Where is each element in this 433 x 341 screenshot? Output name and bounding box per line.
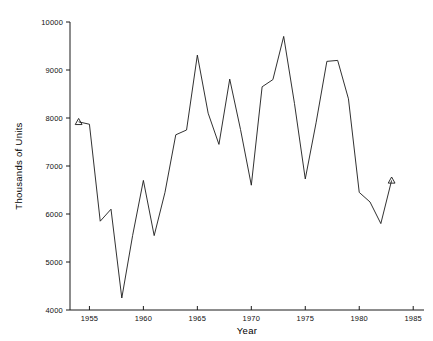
- x-tick-label: 1965: [189, 314, 207, 323]
- chart-canvas: 40005000600070008000900010000 1955196019…: [0, 0, 433, 341]
- x-tick-label: 1985: [404, 314, 422, 323]
- x-tick-label: 1980: [350, 314, 368, 323]
- y-tick-label: 6000: [46, 210, 64, 219]
- y-tick-label: 4000: [46, 306, 64, 315]
- line-chart: 40005000600070008000900010000 1955196019…: [0, 0, 433, 341]
- y-tick-label: 10000: [41, 18, 63, 27]
- data-series: [79, 36, 392, 298]
- y-axis-title: Thousands of Units: [13, 122, 24, 209]
- axes: [70, 22, 424, 310]
- y-tick-label: 8000: [46, 114, 64, 123]
- x-tick-label: 1955: [81, 314, 99, 323]
- data-markers: [75, 118, 395, 183]
- y-axis-ticks: 40005000600070008000900010000: [41, 18, 70, 315]
- x-tick-label: 1970: [243, 314, 261, 323]
- x-axis-title: Year: [237, 325, 257, 336]
- y-tick-label: 9000: [46, 66, 64, 75]
- triangle-up-icon: [75, 118, 82, 124]
- y-tick-label: 7000: [46, 162, 64, 171]
- x-tick-label: 1960: [135, 314, 153, 323]
- x-axis-ticks: 1955196019651970197519801985: [81, 306, 422, 323]
- x-tick-label: 1975: [297, 314, 315, 323]
- data-line: [79, 36, 392, 298]
- y-tick-label: 5000: [46, 258, 64, 267]
